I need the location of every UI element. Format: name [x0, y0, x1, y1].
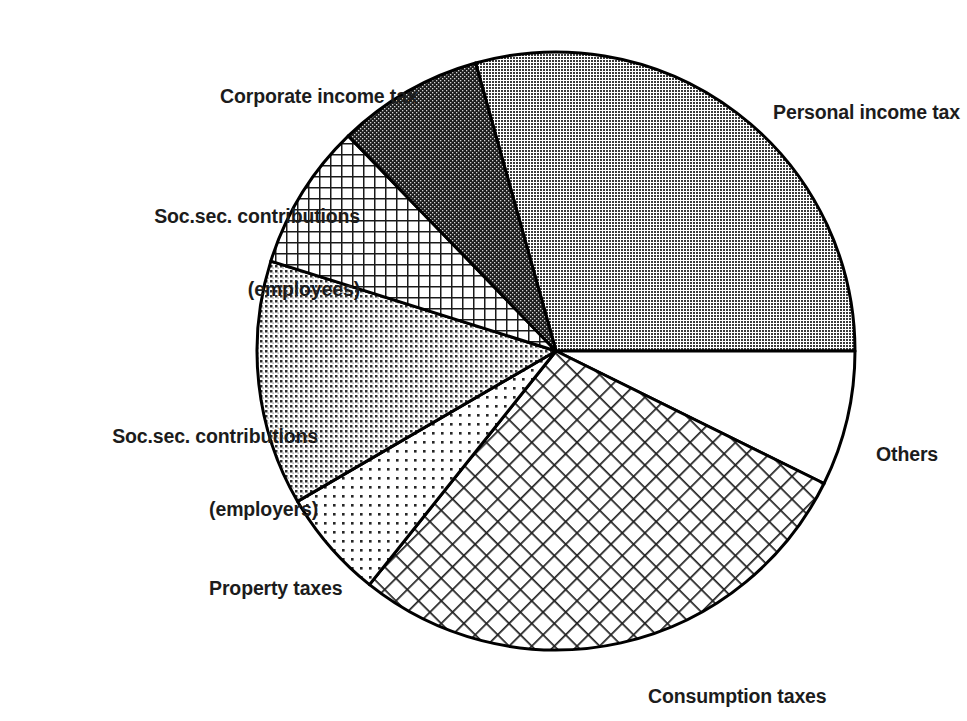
- slice-label-corporate-income-tax: Corporate income tax: [199, 60, 418, 133]
- slice-label-text-line2: (employees): [96, 277, 360, 301]
- slice-label-others: Others: [855, 418, 938, 491]
- slice-label-ssc-employees: Soc.sec. contributions (employees): [96, 156, 360, 349]
- slice-label-text: Corporate income tax: [220, 85, 417, 107]
- slice-label-text-line1: Soc.sec. contributions: [96, 204, 360, 228]
- slice-label-consumption-taxes: Consumption taxes: [627, 660, 826, 721]
- slice-label-personal-income-tax: Personal income tax: [752, 76, 960, 149]
- slice-label-text: Personal income tax: [773, 101, 960, 123]
- slice-label-text: Others: [876, 443, 938, 465]
- slice-label-text: Consumption taxes: [648, 685, 826, 707]
- slice-label-text-line1: Soc.sec. contributions: [46, 424, 318, 448]
- slice-label-ssc-employers: Soc.sec. contributions (employers): [46, 376, 318, 569]
- slice-label-text: Property taxes: [209, 577, 342, 599]
- pie-chart-figure: Personal income tax Others Consumption t…: [0, 0, 967, 721]
- slice-label-text-line2: (employers): [46, 497, 318, 521]
